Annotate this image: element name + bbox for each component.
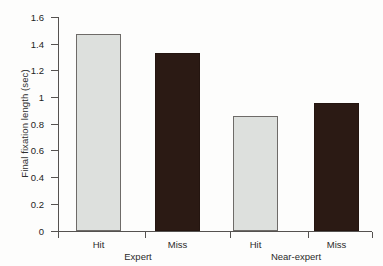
bar-dark-miss-3 — [314, 103, 359, 231]
x-axis-tick — [372, 232, 373, 238]
y-axis-tick-label: 0.4 — [0, 172, 44, 183]
bar-category-label: Miss — [168, 239, 188, 250]
x-axis-tick — [308, 232, 309, 238]
y-axis-line — [58, 17, 59, 232]
y-axis-tick — [51, 17, 58, 18]
y-axis-tick-label: 0 — [0, 226, 44, 237]
bar-light-hit-0 — [76, 34, 121, 231]
bar-category-label: Hit — [93, 239, 105, 250]
y-axis-tick — [51, 204, 58, 205]
y-axis-tick-label: 0.8 — [0, 119, 44, 130]
bar-chart: Final fixation length (sec) 1.61.41.210.… — [0, 0, 383, 266]
y-axis-tick-label: 0.6 — [0, 145, 44, 156]
y-axis-tick-label: 1.2 — [0, 65, 44, 76]
x-axis-line — [58, 231, 372, 232]
y-axis-tick — [51, 231, 58, 232]
x-axis-tick — [58, 232, 59, 238]
bar-category-label: Miss — [327, 239, 347, 250]
y-axis-tick — [51, 177, 58, 178]
y-axis-tick — [51, 97, 58, 98]
x-axis-tick — [230, 232, 231, 238]
y-axis-tick — [51, 70, 58, 71]
y-axis-tick — [51, 44, 58, 45]
x-axis-tick — [145, 232, 146, 238]
bar-dark-miss-1 — [155, 53, 200, 231]
bar-category-label: Hit — [250, 239, 262, 250]
y-axis-tick-label: 1.4 — [0, 39, 44, 50]
y-axis-tick — [51, 150, 58, 151]
y-axis-tick-label: 1 — [0, 92, 44, 103]
y-axis-tick — [51, 124, 58, 125]
y-axis-tick-label: 0.2 — [0, 199, 44, 210]
bar-light-hit-2 — [233, 116, 278, 231]
group-label: Expert — [124, 251, 151, 262]
y-axis-tick-label: 1.6 — [0, 12, 44, 23]
group-label: Near-expert — [271, 251, 321, 262]
